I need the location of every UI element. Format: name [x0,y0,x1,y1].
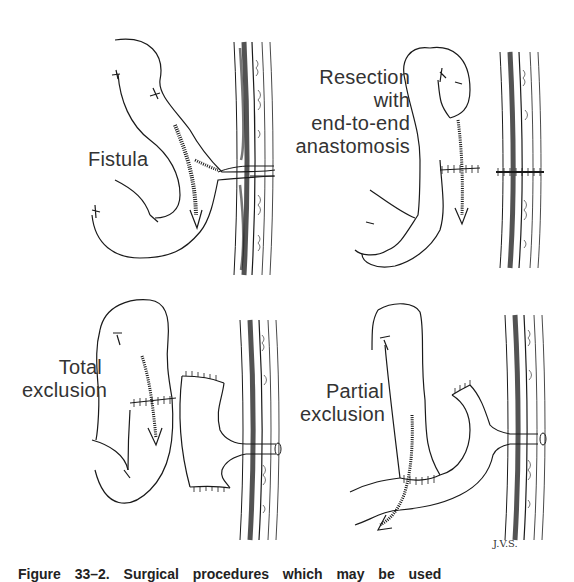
label-line: anastomosis [295,135,410,158]
label-line: with [295,89,410,112]
figure-caption: Figure 33–2. Surgical procedures which m… [18,566,441,582]
abdominal-wall-1 [234,42,274,275]
abdominal-wall-3 [240,320,281,540]
artist-signature: J.V.S. [493,538,518,549]
resection-label: Resection with end-to-end anastomosis [295,66,410,158]
label-line: exclusion [300,403,384,426]
fistula-label: Fistula [88,148,148,171]
label-line: Partial [300,380,384,403]
label-line: end-to-end [295,112,410,135]
label-line: Fistula [88,148,148,171]
label-line: Total [22,356,102,379]
abdominal-wall-4 [505,315,546,540]
abdominal-wall-2 [496,52,544,268]
label-line: Resection [295,66,410,89]
label-line: exclusion [22,379,102,402]
partial-exclusion-label: Partial exclusion [300,380,384,426]
total-exclusion-label: Total exclusion [22,356,102,402]
